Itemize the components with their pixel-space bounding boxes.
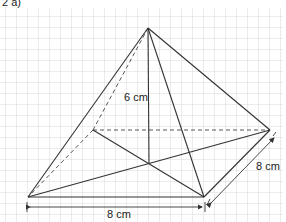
height-label: 6 cm xyxy=(124,91,148,103)
base-width-label: 8 cm xyxy=(107,208,131,220)
base-depth-label: 8 cm xyxy=(256,160,280,172)
grid-background xyxy=(0,8,283,222)
pyramid-diagram: 2 a) 8 cm 8 cm 6 cm xyxy=(0,0,286,222)
question-label: 2 a) xyxy=(2,0,21,8)
